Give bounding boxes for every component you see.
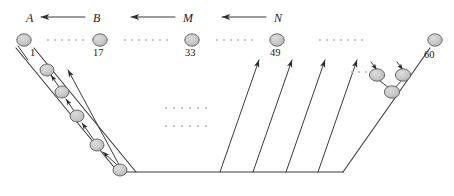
dots-middle-upper [165,107,207,109]
ellipsis-dot [131,39,133,41]
ellipsis-dot [47,39,49,41]
ellipsis-dot [326,39,328,41]
ellipsis-dot [223,39,225,41]
ellipsis-dot [237,39,239,41]
ellipsis-dot [152,39,154,41]
chain-arrow-4-3 [82,123,94,140]
ellipsis-dot [340,39,342,41]
ellipsis-dot [351,71,353,73]
ellipsis-dot [358,71,360,73]
ellipsis-dot [181,107,183,109]
ellipsis-dot [165,125,167,127]
node-label-49: 49 [270,48,281,59]
node-label-17: 17 [93,48,104,59]
chain-arrow-3-2 [66,99,74,111]
ellipsis-dot [333,39,335,41]
ellipsis-dot [251,39,253,41]
fan-line-1 [220,60,259,172]
ellipsis-dot [361,39,363,41]
node-17[interactable] [93,34,107,46]
ellipsis-dot [189,125,191,127]
fan-line-3 [286,60,325,172]
dots-middle-lower [165,125,207,127]
right-cluster-node-group [369,69,410,98]
ellipsis-dot [61,39,63,41]
region-label-b: B [93,12,100,24]
ellipsis-dot [189,107,191,109]
ellipsis-dot [205,125,207,127]
ellipsis-dot [173,125,175,127]
top-node-group [17,34,442,46]
node-33[interactable] [185,34,199,46]
ellipsis-dot [354,39,356,41]
ellipsis-dot [319,39,321,41]
chain-node-3[interactable] [70,110,84,122]
diagram-svg [0,0,454,196]
ellipsis-dot [244,39,246,41]
ellipsis-dot [68,39,70,41]
node-label-60: 60 [424,50,435,61]
ellipsis-dot [230,39,232,41]
ellipsis-dot [54,39,56,41]
fan-line-4 [318,60,357,172]
ellipsis-dot [347,39,349,41]
ellipsis-dot [197,107,199,109]
node-60[interactable] [428,34,442,46]
ellipsis-dot [82,39,84,41]
ellipsis-dot [124,39,126,41]
right-fan-line-group [220,60,357,172]
region-label-n: N [274,12,282,24]
ellipsis-dot [365,71,367,73]
ellipsis-dot [197,125,199,127]
chain-node-5[interactable] [113,164,127,176]
ellipsis-dot [181,125,183,127]
cluster-node-bottom[interactable] [384,86,399,98]
node-49[interactable] [270,34,284,46]
chain-node-1[interactable] [40,64,54,76]
ellipsis-dot [173,107,175,109]
dots-1-17 [47,39,84,41]
ellipsis-dot [75,39,77,41]
fan-line-2 [253,60,292,172]
node-label-1: 1 [30,48,35,59]
diagram-canvas: ABMN117334960 [0,0,454,196]
dots-17-33 [124,39,168,41]
frame-left-outer [16,48,118,172]
ellipsis-dot [138,39,140,41]
cluster-node-right[interactable] [395,69,410,81]
ellipsis-dot [165,107,167,109]
node-1[interactable] [17,34,31,46]
ellipsis-dot [205,107,207,109]
region-label-m: M [183,12,193,24]
region-label-a: A [26,12,33,24]
ellipsis-dot [216,39,218,41]
cluster-node-left[interactable] [369,69,384,81]
ellipsis-dot [166,39,168,41]
ellipsis-dot [159,39,161,41]
left-chain-node-group [40,64,127,176]
dots-33-49 [216,39,253,41]
dots-49-60 [319,39,363,41]
chain-node-2[interactable] [55,86,69,98]
ellipsis-dot [145,39,147,41]
chain-node-4[interactable] [90,139,104,151]
frame-right-outer [343,48,430,172]
node-label-33: 33 [185,48,196,59]
